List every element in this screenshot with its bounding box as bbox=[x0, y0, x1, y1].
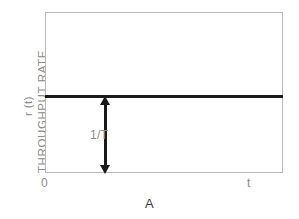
throughput-rate-figure: THROUGHPUT RATE r (t) 1/T 0 t A bbox=[0, 0, 299, 219]
x-axis-tick-end: t bbox=[247, 176, 250, 190]
y-axis-label-group: THROUGHPUT RATE r (t) bbox=[6, 12, 44, 173]
throughput-rate-line bbox=[45, 95, 283, 98]
rate-magnitude-label: 1/T bbox=[90, 128, 108, 142]
plot-area-frame bbox=[45, 12, 283, 173]
y-axis-symbol-label: r (t) bbox=[22, 96, 34, 116]
arrow-head-down-icon bbox=[100, 165, 110, 174]
figure-caption: A bbox=[0, 196, 299, 211]
x-axis-tick-origin: 0 bbox=[41, 176, 48, 190]
